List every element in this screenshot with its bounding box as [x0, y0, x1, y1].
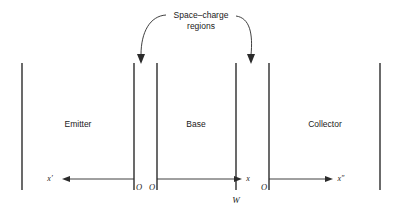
axis-label-x-double-prime: x″ — [337, 174, 346, 183]
region-label-base: Base — [186, 119, 206, 129]
origin-markers-group: O O O — [136, 182, 267, 192]
axis-arrowhead-x — [234, 176, 242, 182]
annotation-text-group: Space–charge regions — [174, 10, 229, 31]
axes-group: x′ x x″ — [46, 174, 345, 183]
annotation-line-1: Space–charge — [174, 10, 229, 20]
region-label-collector: Collector — [308, 119, 342, 129]
region-labels-group: Emitter Base Collector — [65, 119, 342, 129]
leader-arrowhead-right — [247, 54, 255, 64]
axis-label-x-prime: x′ — [46, 174, 53, 183]
leader-curve-right — [236, 16, 252, 55]
region-label-emitter: Emitter — [65, 119, 92, 129]
leader-arrowhead-left — [137, 54, 145, 64]
annotation-line-2: regions — [187, 21, 215, 31]
origin-marker-x-double-prime: O — [261, 182, 267, 192]
bjt-region-diagram: Emitter Base Collector x′ x x″ O O O W — [0, 0, 401, 214]
origin-marker-x-prime: O — [136, 182, 142, 192]
diagram-canvas: Emitter Base Collector x′ x x″ O O O W — [0, 0, 401, 214]
axis-arrowhead-x-double-prime — [325, 176, 333, 182]
leader-curve-left — [141, 15, 166, 55]
base-width-marker-label: W — [232, 195, 241, 205]
origin-marker-x: O — [149, 182, 155, 192]
axis-label-x: x — [245, 174, 250, 183]
axis-arrowhead-x-prime — [62, 176, 70, 182]
